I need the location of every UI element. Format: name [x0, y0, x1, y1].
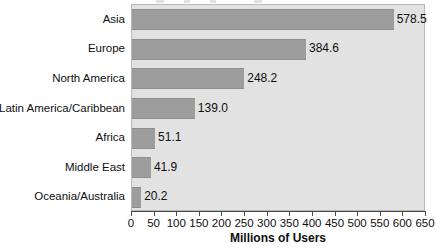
bar	[132, 157, 151, 178]
bar	[132, 98, 195, 119]
x-axis-tick-label: 300	[257, 217, 276, 230]
x-axis-tick-label: 200	[212, 217, 231, 230]
x-axis-tick	[357, 211, 358, 216]
x-axis-tick-label: 50	[147, 217, 160, 230]
x-axis-tick	[267, 211, 268, 216]
x-axis-tick-label: 0	[128, 217, 134, 230]
bar	[132, 187, 141, 208]
bar-value-label: 139.0	[198, 101, 228, 115]
category-label: Africa	[96, 130, 125, 144]
bar	[132, 9, 394, 30]
category-label: Asia	[103, 12, 125, 26]
x-axis-tick	[425, 211, 426, 216]
clipped-title-remnant	[150, 0, 300, 3]
bar	[132, 68, 244, 89]
category-label: Europe	[88, 41, 125, 55]
x-axis-title: Millions of Users	[131, 231, 425, 245]
x-axis-line	[131, 211, 425, 212]
category-label: North America	[52, 71, 125, 85]
bar-value-label: 51.1	[158, 130, 181, 144]
category-label: Middle East	[65, 160, 125, 174]
category-label: Oceania/Australia	[34, 189, 125, 203]
x-axis-tick	[154, 211, 155, 216]
x-axis-tick	[199, 211, 200, 216]
bar	[132, 39, 306, 60]
bar-value-label: 248.2	[247, 71, 277, 85]
bar-value-label: 41.9	[154, 160, 177, 174]
x-axis-tick-label: 150	[189, 217, 208, 230]
x-axis-tick-label: 550	[370, 217, 389, 230]
x-axis-tick	[176, 211, 177, 216]
bar-value-label: 578.5	[397, 12, 427, 26]
x-axis-tick-label: 250	[234, 217, 253, 230]
x-axis-tick-label: 650	[415, 217, 434, 230]
category-label: Latin America/Caribbean	[0, 101, 125, 115]
x-axis-tick	[131, 211, 132, 216]
x-axis-tick-label: 400	[302, 217, 321, 230]
x-axis-tick	[289, 211, 290, 216]
bar-chart: AsiaEuropeNorth AmericaLatin America/Car…	[0, 0, 436, 248]
x-axis-tick	[221, 211, 222, 216]
x-axis-tick	[380, 211, 381, 216]
x-axis-tick-label: 500	[348, 217, 367, 230]
x-axis-tick-label: 100	[167, 217, 186, 230]
x-axis-tick-label: 450	[325, 217, 344, 230]
x-axis-tick	[335, 211, 336, 216]
x-axis-tick	[244, 211, 245, 216]
category-axis-labels: AsiaEuropeNorth AmericaLatin America/Car…	[0, 4, 128, 211]
x-axis-tick-label: 350	[280, 217, 299, 230]
x-axis-tick	[402, 211, 403, 216]
bar-value-label: 384.6	[309, 41, 339, 55]
bars-container	[132, 5, 424, 210]
x-axis-tick	[312, 211, 313, 216]
bar	[132, 128, 155, 149]
x-axis-tick-label: 600	[393, 217, 412, 230]
plot-area	[131, 4, 425, 211]
bar-value-label: 20.2	[144, 189, 167, 203]
